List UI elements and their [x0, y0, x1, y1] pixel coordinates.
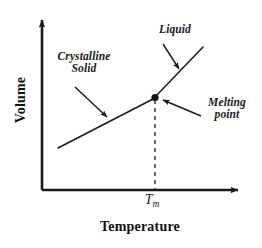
tm-subscript: m — [152, 199, 159, 209]
curve-crystalline-solid — [58, 98, 155, 148]
annotation-melting-point: Melting point — [196, 96, 258, 121]
curve-liquid — [155, 47, 203, 97]
x-axis-title: Temperature — [70, 219, 210, 235]
annotation-liquid: Liquid — [148, 23, 202, 35]
x-axis-tick-label-tm: Tm — [132, 192, 172, 209]
y-axis-title: Volume — [13, 65, 29, 135]
volume-temperature-diagram: Crystalline Solid Liquid Melting point T… — [0, 0, 262, 248]
melting-point-marker — [151, 94, 158, 101]
pointer-arrow-liquid — [163, 44, 179, 69]
pointer-arrow-crystalline-solid — [75, 87, 107, 117]
annotation-crystalline-solid: Crystalline Solid — [45, 50, 123, 75]
diagram-canvas — [0, 0, 262, 248]
